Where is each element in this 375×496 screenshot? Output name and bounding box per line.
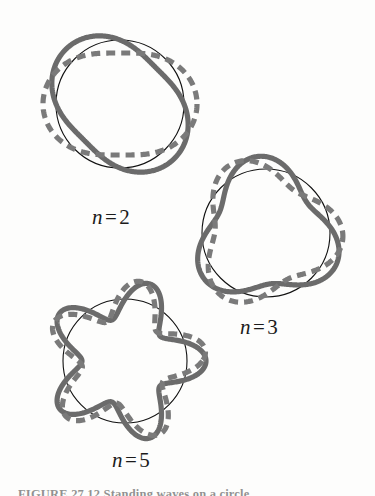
figure-root: n=2 n=3 n=5 FIGURE 27.12 Standing waves … — [0, 0, 375, 496]
panel-label-n5-var: n — [112, 448, 123, 472]
panel-label-n5-eq: = — [123, 448, 139, 472]
panel-label-n2: n=2 — [92, 205, 130, 230]
panel-label-n5-value: 5 — [139, 448, 150, 472]
panel-label-n3-var: n — [240, 315, 251, 339]
figure-caption: FIGURE 27.12 Standing waves on a circle — [18, 487, 368, 496]
panel-label-n5: n=5 — [112, 448, 150, 473]
dashed-standing-wave-n2 — [43, 53, 197, 155]
orbit-circle-n3 — [202, 169, 330, 297]
solid-standing-wave-n2 — [52, 36, 188, 172]
panel-label-n3: n=3 — [240, 315, 278, 340]
panel-n3-group — [198, 156, 343, 302]
panel-label-n2-var: n — [92, 205, 103, 229]
panel-label-n2-eq: = — [103, 205, 119, 229]
panel-n5-group — [53, 281, 207, 438]
panel-n2-group — [43, 36, 197, 172]
panel-label-n3-value: 3 — [267, 315, 278, 339]
panel-label-n2-value: 2 — [119, 205, 130, 229]
standing-waves-diagram — [0, 0, 375, 496]
panel-label-n3-eq: = — [251, 315, 267, 339]
